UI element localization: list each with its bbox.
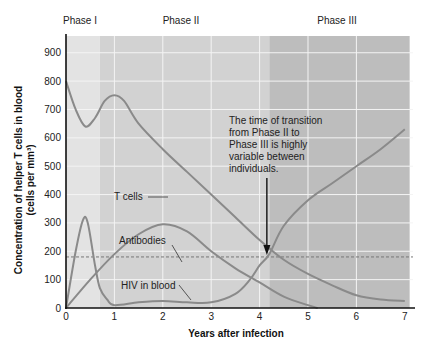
y-axis-title-line2: (cells per mm³) xyxy=(25,144,36,215)
y-axis-ticks: 0100200300400500600700800900 xyxy=(44,47,61,313)
y-axis-title: Concentration of helper T cells in blood… xyxy=(13,86,36,274)
antibodies-label: Antibodies xyxy=(119,235,166,246)
annotation-line-4: variable between xyxy=(229,151,305,162)
x-tick-label: 1 xyxy=(112,311,118,322)
y-tick-label: 0 xyxy=(55,303,61,314)
y-tick-label: 700 xyxy=(44,104,61,115)
x-axis-title: Years after infection xyxy=(188,328,284,339)
annotation-line-2: from Phase II to xyxy=(229,127,300,138)
phase-label-2: Phase II xyxy=(163,15,200,26)
y-tick-label: 400 xyxy=(44,189,61,200)
annotation-line-3: Phase III is highly xyxy=(229,139,307,150)
x-tick-label: 3 xyxy=(208,311,214,322)
phase-label-3: Phase III xyxy=(317,15,356,26)
x-tick-label: 2 xyxy=(160,311,166,322)
y-axis-title-line1: Concentration of helper T cells in blood xyxy=(13,86,24,274)
y-tick-label: 600 xyxy=(44,132,61,143)
x-tick-label: 0 xyxy=(63,311,69,322)
hiv-progression-chart: 0100200300400500600700800900 01234567 Ph… xyxy=(0,0,424,349)
t-cells-label: T cells xyxy=(114,191,143,202)
y-tick-label: 100 xyxy=(44,274,61,285)
x-tick-label: 6 xyxy=(354,311,360,322)
hiv-label: HIV in blood xyxy=(121,280,175,291)
x-tick-label: 4 xyxy=(257,311,263,322)
y-tick-label: 200 xyxy=(44,246,61,257)
phase-region-3 xyxy=(269,36,409,308)
annotation-line-5: individuals. xyxy=(229,163,278,174)
phase-labels: Phase IPhase IIPhase III xyxy=(63,15,357,26)
annotation-line-1: The time of transition xyxy=(229,115,322,126)
y-tick-label: 300 xyxy=(44,217,61,228)
y-tick-label: 500 xyxy=(44,161,61,172)
y-tick-label: 800 xyxy=(44,76,61,87)
y-tick-label: 900 xyxy=(44,47,61,58)
x-tick-label: 5 xyxy=(305,311,311,322)
x-axis-ticks: 01234567 xyxy=(63,311,408,322)
phase-label-1: Phase I xyxy=(63,15,97,26)
x-tick-label: 7 xyxy=(402,311,408,322)
